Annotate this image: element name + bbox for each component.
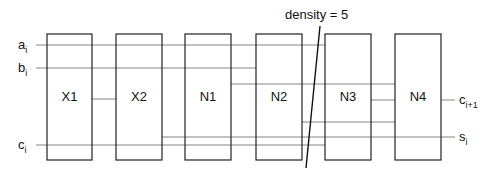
block-n3: N3 bbox=[325, 34, 371, 160]
wires bbox=[36, 45, 455, 145]
block-label: N1 bbox=[200, 89, 217, 104]
block-n4: N4 bbox=[395, 34, 441, 160]
block-label: X1 bbox=[62, 89, 78, 104]
block-label: N2 bbox=[271, 89, 288, 104]
density-annotation: density = 5 bbox=[285, 7, 348, 22]
input-label-a: ai bbox=[18, 37, 27, 55]
density-cut-line bbox=[306, 26, 320, 168]
block-x2: X2 bbox=[116, 34, 162, 160]
block-n1: N1 bbox=[185, 34, 231, 160]
input-label-c: ci bbox=[18, 137, 27, 155]
circuit-diagram: X1 X2 N1 N2 N3 N4 ai bi ci ci+1 si densi… bbox=[0, 0, 495, 177]
block-label: N3 bbox=[340, 89, 357, 104]
input-label-b: bi bbox=[18, 60, 27, 78]
output-label-sum: si bbox=[459, 129, 468, 147]
block-n2: N2 bbox=[256, 34, 302, 160]
block-label: N4 bbox=[410, 89, 427, 104]
block-label: X2 bbox=[131, 89, 147, 104]
output-label-carry: ci+1 bbox=[459, 92, 478, 110]
block-x1: X1 bbox=[47, 34, 92, 160]
